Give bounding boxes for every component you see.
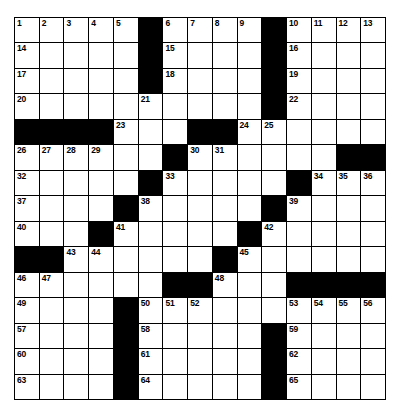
answer-cell[interactable] [139, 222, 163, 246]
answer-cell[interactable] [337, 120, 361, 144]
answer-cell[interactable] [89, 171, 113, 195]
answer-cell[interactable] [213, 298, 237, 322]
answer-cell[interactable] [114, 94, 138, 118]
answer-cell[interactable] [213, 324, 237, 348]
answer-cell[interactable] [89, 298, 113, 322]
answer-cell[interactable] [238, 324, 262, 348]
answer-cell[interactable] [64, 43, 88, 67]
answer-cell[interactable] [114, 145, 138, 169]
answer-cell[interactable] [40, 196, 64, 220]
answer-cell[interactable] [213, 196, 237, 220]
answer-cell[interactable] [312, 120, 336, 144]
answer-cell[interactable] [262, 171, 286, 195]
answer-cell[interactable] [40, 324, 64, 348]
answer-cell[interactable]: 27 [40, 145, 64, 169]
answer-cell[interactable] [337, 222, 361, 246]
answer-cell[interactable]: 20 [15, 94, 39, 118]
answer-cell[interactable] [89, 196, 113, 220]
answer-cell[interactable] [337, 43, 361, 67]
answer-cell[interactable]: 7 [188, 18, 212, 42]
answer-cell[interactable] [64, 298, 88, 322]
answer-cell[interactable] [89, 349, 113, 373]
answer-cell[interactable]: 13 [361, 18, 385, 42]
answer-cell[interactable] [188, 196, 212, 220]
answer-cell[interactable] [312, 69, 336, 93]
answer-cell[interactable] [188, 247, 212, 271]
answer-cell[interactable] [287, 145, 311, 169]
answer-cell[interactable]: 11 [312, 18, 336, 42]
answer-cell[interactable] [337, 247, 361, 271]
answer-cell[interactable] [337, 375, 361, 399]
answer-cell[interactable]: 49 [15, 298, 39, 322]
answer-cell[interactable]: 56 [361, 298, 385, 322]
answer-cell[interactable] [114, 171, 138, 195]
answer-cell[interactable] [188, 69, 212, 93]
answer-cell[interactable] [312, 349, 336, 373]
answer-cell[interactable] [114, 273, 138, 297]
answer-cell[interactable] [361, 43, 385, 67]
answer-cell[interactable] [163, 324, 187, 348]
answer-cell[interactable]: 42 [262, 222, 286, 246]
answer-cell[interactable] [337, 196, 361, 220]
answer-cell[interactable] [238, 94, 262, 118]
answer-cell[interactable]: 59 [287, 324, 311, 348]
answer-cell[interactable] [262, 247, 286, 271]
answer-cell[interactable] [114, 43, 138, 67]
answer-cell[interactable]: 22 [287, 94, 311, 118]
answer-cell[interactable] [213, 222, 237, 246]
answer-cell[interactable]: 18 [163, 69, 187, 93]
answer-cell[interactable] [64, 375, 88, 399]
answer-cell[interactable] [89, 324, 113, 348]
answer-cell[interactable]: 9 [238, 18, 262, 42]
answer-cell[interactable] [64, 273, 88, 297]
answer-cell[interactable]: 4 [89, 18, 113, 42]
answer-cell[interactable] [40, 375, 64, 399]
answer-cell[interactable] [188, 349, 212, 373]
answer-cell[interactable] [163, 222, 187, 246]
answer-cell[interactable]: 21 [139, 94, 163, 118]
answer-cell[interactable] [337, 349, 361, 373]
answer-cell[interactable]: 2 [40, 18, 64, 42]
answer-cell[interactable]: 17 [15, 69, 39, 93]
answer-cell[interactable]: 12 [337, 18, 361, 42]
answer-cell[interactable] [361, 222, 385, 246]
answer-cell[interactable] [213, 349, 237, 373]
answer-cell[interactable] [139, 145, 163, 169]
answer-cell[interactable]: 54 [312, 298, 336, 322]
answer-cell[interactable]: 29 [89, 145, 113, 169]
answer-cell[interactable] [238, 145, 262, 169]
answer-cell[interactable] [40, 298, 64, 322]
answer-cell[interactable]: 23 [114, 120, 138, 144]
answer-cell[interactable]: 32 [15, 171, 39, 195]
answer-cell[interactable]: 3 [64, 18, 88, 42]
answer-cell[interactable] [287, 222, 311, 246]
answer-cell[interactable]: 19 [287, 69, 311, 93]
answer-cell[interactable]: 10 [287, 18, 311, 42]
answer-cell[interactable] [163, 94, 187, 118]
answer-cell[interactable]: 61 [139, 349, 163, 373]
answer-cell[interactable]: 30 [188, 145, 212, 169]
answer-cell[interactable] [287, 120, 311, 144]
answer-cell[interactable] [287, 247, 311, 271]
answer-cell[interactable] [213, 69, 237, 93]
answer-cell[interactable] [40, 222, 64, 246]
answer-cell[interactable]: 35 [337, 171, 361, 195]
answer-cell[interactable]: 39 [287, 196, 311, 220]
answer-cell[interactable] [139, 247, 163, 271]
answer-cell[interactable] [188, 324, 212, 348]
answer-cell[interactable]: 1 [15, 18, 39, 42]
answer-cell[interactable] [188, 43, 212, 67]
answer-cell[interactable]: 57 [15, 324, 39, 348]
answer-cell[interactable]: 8 [213, 18, 237, 42]
answer-cell[interactable]: 45 [238, 247, 262, 271]
answer-cell[interactable]: 14 [15, 43, 39, 67]
answer-cell[interactable]: 40 [15, 222, 39, 246]
answer-cell[interactable] [188, 171, 212, 195]
answer-cell[interactable] [89, 94, 113, 118]
answer-cell[interactable] [40, 43, 64, 67]
answer-cell[interactable] [361, 69, 385, 93]
answer-cell[interactable] [64, 349, 88, 373]
answer-cell[interactable] [213, 171, 237, 195]
answer-cell[interactable] [361, 196, 385, 220]
answer-cell[interactable] [238, 375, 262, 399]
